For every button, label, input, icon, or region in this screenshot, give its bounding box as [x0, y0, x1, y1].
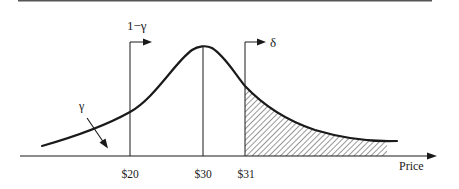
shaded-tail-region: [245, 86, 397, 156]
tick-label-30: $30: [194, 168, 212, 180]
delta-label: δ: [270, 35, 276, 50]
one-minus-gamma-label: 1−γ: [127, 18, 147, 33]
right-arrow-icon: [257, 39, 266, 46]
x-axis-label: Price: [399, 159, 424, 173]
price-distribution-diagram: 1−γ δ γ $20 $30 $31 Price: [0, 0, 459, 189]
x-axis-arrow-icon: [427, 153, 437, 160]
gamma-label: γ: [78, 99, 85, 113]
tick-label-31: $31: [237, 168, 255, 180]
right-arrow-icon: [143, 39, 152, 46]
tick-label-20: $20: [121, 168, 139, 180]
down-right-arrow-icon: [100, 139, 109, 149]
